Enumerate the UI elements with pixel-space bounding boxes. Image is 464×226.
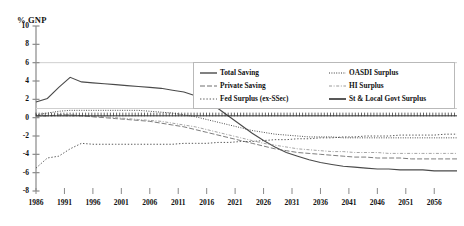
legend-item[interactable]: St & Local Govt Surplus bbox=[329, 93, 426, 105]
series-st-local-govt-surplus bbox=[36, 113, 457, 117]
chart-legend: Total SavingPrivate SavingFed Surplus (e… bbox=[193, 62, 455, 109]
x-axis-tick-label: 1996 bbox=[78, 198, 108, 207]
y-axis-tick-label: 10 bbox=[13, 21, 29, 30]
legend-item-label: Fed Surplus (ex-SSec) bbox=[220, 95, 289, 103]
legend-line-swatch bbox=[329, 95, 346, 103]
legend-item-label: St & Local Govt Surplus bbox=[349, 95, 426, 103]
x-axis-tick-label: 2021 bbox=[220, 198, 250, 207]
y-axis-tick-label: 2 bbox=[13, 94, 29, 103]
x-axis-tick-label: 2041 bbox=[334, 198, 364, 207]
y-axis-tick-label: -4 bbox=[13, 149, 29, 158]
legend-item[interactable]: OASDI Surplus bbox=[329, 67, 426, 79]
legend-item-label: HI Surplus bbox=[349, 82, 384, 90]
x-axis-tick-label: 2036 bbox=[305, 198, 335, 207]
x-axis-tick-label: 2051 bbox=[391, 198, 421, 207]
legend-item[interactable]: Private Saving bbox=[200, 80, 289, 92]
legend-line-swatch bbox=[329, 82, 346, 90]
y-axis-tick-label: -8 bbox=[13, 186, 29, 195]
legend-line-swatch bbox=[200, 69, 217, 77]
y-axis-tick-label: -2 bbox=[13, 131, 29, 140]
x-axis-tick-label: 2016 bbox=[192, 198, 222, 207]
right_items-column: OASDI SurplusHI SurplusSt & Local Govt S… bbox=[329, 67, 426, 106]
x-axis-tick-label: 1986 bbox=[21, 198, 51, 207]
legend-line-swatch bbox=[200, 95, 217, 103]
series-hi-surplus bbox=[36, 116, 457, 154]
x-axis-tick-label: 1991 bbox=[49, 198, 79, 207]
x-axis-tick-label: 2006 bbox=[135, 198, 165, 207]
y-axis-tick-label: 0 bbox=[13, 113, 29, 122]
plot-area bbox=[0, 0, 464, 226]
legend-item-label: OASDI Surplus bbox=[349, 69, 398, 77]
y-axis-tick-label: 8 bbox=[13, 39, 29, 48]
legend-item-label: Total Saving bbox=[220, 69, 259, 77]
x-axis-tick-label: 2026 bbox=[249, 198, 279, 207]
y-axis-tick-label: 6 bbox=[13, 58, 29, 67]
legend-line-swatch bbox=[200, 82, 217, 90]
left_items-column: Total SavingPrivate SavingFed Surplus (e… bbox=[200, 67, 289, 106]
legend-item[interactable]: Fed Surplus (ex-SSec) bbox=[200, 93, 289, 105]
series-fed-surplus-ex-ssec bbox=[36, 134, 457, 168]
legend-item[interactable]: HI Surplus bbox=[329, 80, 426, 92]
x-axis-tick-label: 2056 bbox=[419, 198, 449, 207]
x-axis-tick-label: 2011 bbox=[163, 198, 193, 207]
legend-item[interactable]: Total Saving bbox=[200, 67, 289, 79]
series-private-saving bbox=[36, 115, 457, 159]
y-axis-tick-label: 4 bbox=[13, 76, 29, 85]
x-axis-tick-label: 2031 bbox=[277, 198, 307, 207]
y-axis-tick-label: -6 bbox=[13, 168, 29, 177]
legend-line-swatch bbox=[329, 69, 346, 77]
chart-container: % GNP Total SavingPrivate SavingFed Surp… bbox=[0, 0, 464, 226]
x-axis-tick-label: 2046 bbox=[362, 198, 392, 207]
legend-item-label: Private Saving bbox=[220, 82, 266, 90]
x-axis-tick-label: 2001 bbox=[106, 198, 136, 207]
